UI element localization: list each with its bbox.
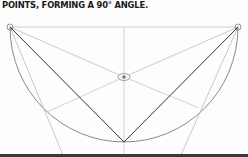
bottom-border-bar (0, 154, 248, 157)
center-to-left-arc-line (47, 77, 124, 112)
diagram-canvas: POINTS, FORMING A 90° ANGLE. (0, 0, 248, 157)
diagram-svg (0, 0, 248, 157)
center-to-right-arc-line (124, 77, 199, 108)
left-outer-line (10, 27, 63, 155)
center-marker-inner (122, 75, 126, 79)
right-to-center-line (124, 27, 238, 77)
left-to-center-line (10, 27, 124, 77)
right-outer-line (181, 27, 238, 155)
